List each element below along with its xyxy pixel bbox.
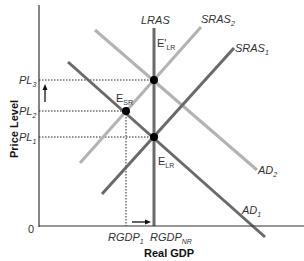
y-axis-title: Price Level	[8, 100, 20, 158]
e-lr-point	[150, 133, 158, 141]
lras-label: LRAS	[141, 14, 170, 26]
sras1-curve	[102, 48, 234, 194]
x-axis-title: Real GDP	[144, 247, 194, 259]
pl1-label: PL1	[19, 131, 36, 145]
ad2-label: AD2	[257, 164, 277, 178]
origin-label: 0	[28, 223, 34, 235]
pl3-label: PL3	[19, 74, 36, 88]
rgdp-nr-label: RGDPNR	[150, 231, 192, 245]
e-lr-label: ELR	[158, 155, 174, 169]
e-prime-lr-label: E'LR	[157, 37, 175, 51]
sras1-label: SRAS1	[235, 42, 269, 56]
guide-lines	[39, 80, 154, 226]
ad1-label: AD1	[241, 204, 261, 218]
sras2-curve	[80, 27, 201, 163]
as-ad-diagram: LRAS SRAS2 SRAS1 AD2 AD1 E'LR ESR ELR PL…	[0, 0, 304, 261]
right-arrow-icon	[132, 220, 151, 225]
e-prime-lr-point	[150, 76, 158, 84]
pl2-label: PL2	[19, 105, 36, 119]
sras2-label: SRAS2	[201, 13, 235, 27]
e-sr-label: ESR	[116, 92, 133, 106]
rgdp1-label: RGDP1	[108, 231, 144, 245]
e-sr-point	[122, 107, 130, 115]
up-arrow-icon	[43, 84, 48, 102]
